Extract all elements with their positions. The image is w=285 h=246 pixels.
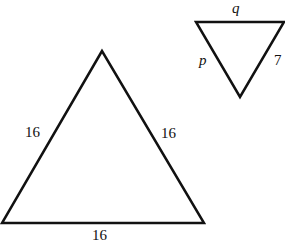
large-bottom-side-label: 16 <box>92 228 107 243</box>
diagram-canvas <box>0 0 285 246</box>
small-left-side-label: p <box>199 53 207 68</box>
small-triangle <box>196 22 284 97</box>
large-left-side-label: 16 <box>25 125 40 140</box>
large-right-side-label: 16 <box>161 126 176 141</box>
small-right-side-label: 7 <box>274 53 282 68</box>
small-top-side-label: q <box>232 1 240 16</box>
